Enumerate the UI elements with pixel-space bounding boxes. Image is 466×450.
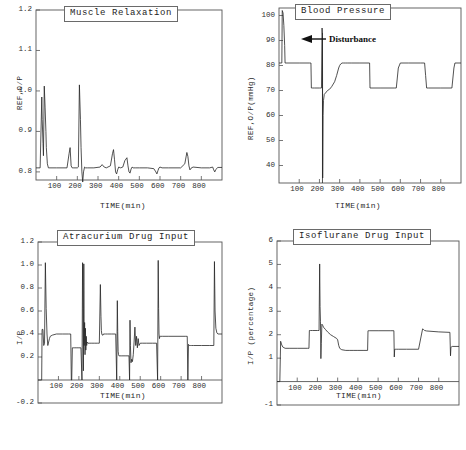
panel-title-isoflurane-drug-input: Isoflurane Drug Input [293,229,431,245]
x-axis-label-isoflurane: TIME(min) [336,391,382,400]
figure-grid: Muscle Relaxation REF,O/P TIME(min) 0.80… [0,0,466,450]
y-tick-label: 6 [243,236,273,244]
x-tick-label: 700 [172,382,186,390]
y-tick-label: 1.2 [4,237,34,245]
y-tick-label: 5 [243,259,273,267]
x-tick-label: 500 [369,384,383,392]
y-tick-label: 3 [243,306,273,314]
y-tick-label: 4 [243,283,273,291]
x-tick-label: 300 [89,182,103,190]
x-tick-label: 200 [70,382,84,390]
x-tick-label: 700 [410,384,424,392]
x-tick-label: 400 [111,382,125,390]
y-tick-label: 1.0 [4,260,34,268]
y-tick-label: -0.2 [4,398,34,406]
x-axis-label-blood-pressure: TIME(min) [335,201,381,210]
x-tick-label: 100 [48,182,62,190]
x-tick-label: 700 [172,182,186,190]
y-tick-label: -1 [243,400,273,408]
panel-title-atracurium-drug-input: Atracurium Drug Input [57,230,195,246]
x-tick-label: 500 [371,185,385,193]
atracurium-drug-input-plot [0,225,233,450]
y-tick-label: 1 [243,353,273,361]
x-tick-label: 600 [389,384,403,392]
x-tick-label: 100 [288,384,302,392]
y-tick-label: 0.2 [4,352,34,360]
x-tick-label: 500 [131,382,145,390]
y-tick-label: 1.0 [2,86,32,94]
panel-isoflurane-drug-input: Isoflurane Drug Input I/P (percentage) T… [233,225,466,450]
x-tick-label: 800 [430,384,444,392]
x-tick-label: 600 [151,182,165,190]
x-tick-label: 800 [432,185,446,193]
x-tick-label: 400 [349,384,363,392]
x-tick-label: 800 [193,382,207,390]
y-tick-label: 80 [245,61,275,69]
x-axis-label-atracurium: TIME(min) [100,391,146,400]
x-tick-label: 600 [391,185,405,193]
x-tick-label: 300 [331,185,345,193]
y-tick-label: 50 [245,136,275,144]
disturbance-annotation: Disturbance [329,34,376,44]
y-tick-label: 100 [245,11,275,19]
y-tick-label: 90 [245,36,275,44]
x-tick-label: 400 [110,182,124,190]
x-tick-label: 200 [308,384,322,392]
panel-atracurium-drug-input: Atracurium Drug Input I/P TIME(min) -0.2… [0,225,233,450]
x-tick-label: 600 [152,382,166,390]
x-tick-label: 100 [290,185,304,193]
y-tick-label: 0.6 [4,306,34,314]
x-tick-label: 400 [351,185,365,193]
panel-blood-pressure: Blood Pressure REF,O/P(mmHg) TIME(min) D… [233,0,466,225]
x-tick-label: 800 [192,182,206,190]
y-tick-label: 60 [245,111,275,119]
muscle-relaxation-plot [0,0,233,225]
x-tick-label: 300 [329,384,343,392]
y-tick-label: 0.8 [2,167,32,175]
x-axis-label-muscle-relaxation: TIME(min) [100,201,146,210]
y-tick-label: 1.2 [2,5,32,13]
panel-title-muscle-relaxation: Muscle Relaxation [64,6,178,22]
y-tick-label: 70 [245,86,275,94]
x-tick-label: 200 [310,185,324,193]
y-tick-label: 0.8 [4,283,34,291]
y-tick-label: 40 [245,161,275,169]
x-tick-label: 100 [49,382,63,390]
y-tick-label: 0.4 [4,329,34,337]
panel-title-blood-pressure: Blood Pressure [295,4,391,20]
y-tick-label: 2 [243,330,273,338]
x-tick-label: 200 [68,182,82,190]
x-tick-label: 700 [412,185,426,193]
panel-muscle-relaxation: Muscle Relaxation REF,O/P TIME(min) 0.80… [0,0,233,225]
x-tick-label: 300 [90,382,104,390]
y-tick-label: 1.1 [2,45,32,53]
x-tick-label: 500 [130,182,144,190]
y-tick-label: 0.9 [2,126,32,134]
